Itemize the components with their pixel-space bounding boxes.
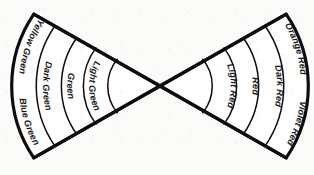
green-fan: Yellow Green Blue Green Dark Green Green…	[12, 14, 160, 158]
band-label-green: Green	[65, 72, 76, 100]
red-fan: Orange Red Violet Red Dark Red Red Light…	[160, 14, 309, 158]
fan-diagram: Yellow Green Blue Green Dark Green Green…	[0, 0, 314, 175]
band-label-red: Red	[250, 77, 261, 96]
diagram-canvas: Yellow Green Blue Green Dark Green Green…	[0, 0, 314, 175]
